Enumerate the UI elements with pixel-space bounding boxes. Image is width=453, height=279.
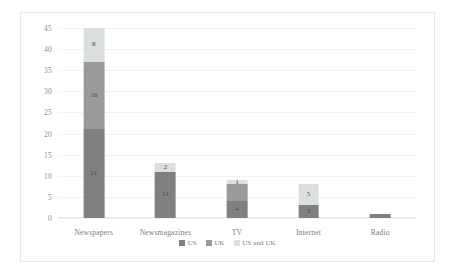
chart-frame: 051015202530354045 21168Newspapers112New… <box>20 12 435 262</box>
bar-value-label: 5 <box>307 191 311 198</box>
bar-segment[interactable]: 5 <box>298 184 319 205</box>
x-axis-category-label: Internet <box>296 228 321 237</box>
bar-value-label: 21 <box>90 170 97 177</box>
bar-value-label: 3 <box>307 208 311 215</box>
legend-swatch-icon <box>206 240 212 246</box>
bar-value-label: 2 <box>164 164 168 171</box>
bar-segment[interactable]: 16 <box>83 62 104 130</box>
y-axis-tick-label: 20 <box>44 129 52 138</box>
legend-item[interactable]: UK <box>206 239 225 247</box>
y-axis-tick-label: 0 <box>48 214 52 223</box>
x-axis-category-label: Newsmagazines <box>140 228 191 237</box>
bar-segment[interactable]: 3 <box>298 205 319 218</box>
bar-stack[interactable] <box>370 214 391 218</box>
y-axis-tick-label: 10 <box>44 171 52 180</box>
bar-stack[interactable]: 35 <box>298 184 319 218</box>
bar-segment[interactable]: 8 <box>83 28 104 62</box>
y-axis-tick-label: 35 <box>44 66 52 75</box>
x-axis-category-label: Radio <box>371 228 390 237</box>
gridline <box>58 218 416 219</box>
bar-value-label: 11 <box>162 191 169 198</box>
y-axis-tick-label: 45 <box>44 24 52 33</box>
legend-label: UK <box>214 239 224 247</box>
legend-item[interactable]: US <box>179 239 197 247</box>
bar-segment[interactable]: 21 <box>83 129 104 218</box>
plot-area: 051015202530354045 21168Newspapers112New… <box>58 28 416 218</box>
bar-stack[interactable]: 112 <box>155 163 176 218</box>
chart-legend: USUKUS and UK <box>21 239 434 247</box>
y-axis-tick-label: 25 <box>44 108 52 117</box>
bar-series-container: 21168Newspapers112Newsmagazines41TV35Int… <box>58 28 416 218</box>
y-axis-tick-label: 5 <box>48 192 52 201</box>
y-axis-tick-label: 40 <box>44 45 52 54</box>
legend-label: US and UK <box>242 239 276 247</box>
bar-stack[interactable]: 41 <box>227 180 248 218</box>
bar-segment[interactable] <box>227 184 248 201</box>
x-axis-category-label: TV <box>232 228 242 237</box>
bar-value-label: 8 <box>92 41 96 48</box>
bar-segment[interactable]: 11 <box>155 172 176 218</box>
bar-segment[interactable]: 4 <box>227 201 248 218</box>
y-axis-tick-label: 30 <box>44 87 52 96</box>
x-axis-category-label: Newspapers <box>74 228 113 237</box>
legend-swatch-icon <box>234 240 240 246</box>
bar-segment[interactable]: 2 <box>155 163 176 171</box>
legend-label: US <box>188 239 197 247</box>
y-axis-tick-label: 15 <box>44 150 52 159</box>
bar-stack[interactable]: 21168 <box>83 28 104 218</box>
bar-value-label: 1 <box>235 179 239 186</box>
legend-item[interactable]: US and UK <box>234 239 276 247</box>
bar-value-label: 4 <box>235 206 239 213</box>
bar-value-label: 16 <box>90 92 97 99</box>
legend-swatch-icon <box>179 240 185 246</box>
bar-segment[interactable] <box>370 214 391 218</box>
bar-segment[interactable]: 1 <box>227 180 248 184</box>
